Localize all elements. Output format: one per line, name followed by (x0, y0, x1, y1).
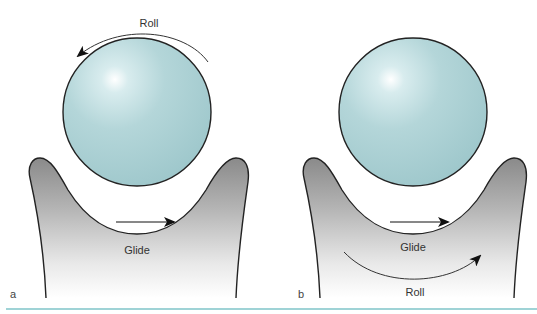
ball-b (339, 38, 487, 186)
glide-label-b: Glide (400, 241, 426, 253)
ball-a (63, 38, 211, 186)
roll-glide-diagram: Glide Roll a Glide Roll b (0, 0, 537, 314)
panel-b: Glide Roll b (298, 38, 526, 300)
panel-label-b: b (298, 288, 304, 300)
roll-label-a: Roll (140, 17, 159, 29)
roll-label-b: Roll (406, 286, 425, 298)
panel-a: Glide Roll a (10, 17, 248, 300)
glide-label-a: Glide (124, 244, 150, 256)
panel-label-a: a (10, 288, 17, 300)
